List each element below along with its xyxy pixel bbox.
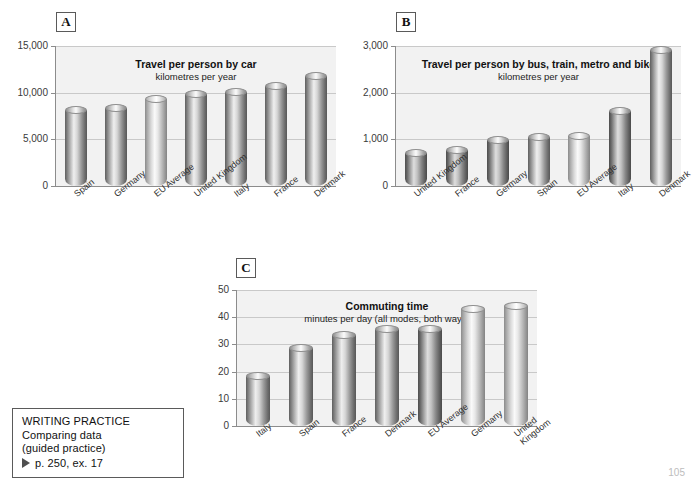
writing-practice-reference[interactable]: p. 250, ex. 17 bbox=[22, 457, 175, 471]
writing-practice-box: WRITING PRACTICE Comparing data (guided … bbox=[12, 408, 184, 478]
chart-title-a: Travel per person by car bbox=[56, 58, 336, 70]
bar bbox=[568, 132, 590, 186]
chart-subtitle-b: kilometres per year bbox=[396, 71, 681, 82]
gridline bbox=[56, 46, 336, 47]
bar-body bbox=[65, 110, 87, 186]
bar bbox=[650, 46, 672, 186]
triangle-right-icon bbox=[22, 458, 30, 468]
plot-area-b: Travel per person by bus, train, metro a… bbox=[395, 46, 681, 187]
y-axis-tick-mark bbox=[391, 93, 395, 94]
plot-area-a: Travel per person by carkilometres per y… bbox=[55, 46, 336, 187]
y-axis-tick-label: 30 bbox=[200, 339, 229, 349]
bar bbox=[305, 72, 327, 186]
bar-body bbox=[265, 86, 287, 186]
bar-top-ellipse bbox=[504, 302, 528, 310]
y-axis-tick-label: 50 bbox=[200, 285, 229, 295]
y-axis-tick-label: 3,000 bbox=[340, 41, 388, 51]
bar-body bbox=[375, 329, 399, 426]
bar-top-ellipse bbox=[289, 344, 313, 352]
y-axis-tick-mark bbox=[391, 186, 395, 187]
y-axis-tick-mark bbox=[51, 46, 55, 47]
bar-top-ellipse bbox=[528, 133, 550, 141]
y-axis-tick-mark bbox=[51, 139, 55, 140]
bar-body bbox=[650, 50, 672, 186]
y-axis-tick-label: 2,000 bbox=[340, 88, 388, 98]
bar-body bbox=[528, 137, 550, 186]
gridline bbox=[396, 93, 681, 94]
y-axis-tick-mark bbox=[391, 139, 395, 140]
bar-body bbox=[487, 140, 509, 186]
bar-top-ellipse bbox=[305, 72, 327, 80]
y-axis-tick-mark bbox=[51, 186, 55, 187]
bar-top-ellipse bbox=[225, 88, 247, 96]
bar bbox=[418, 325, 442, 426]
bar bbox=[487, 136, 509, 186]
y-axis-tick-mark bbox=[232, 317, 236, 318]
y-axis-tick-mark bbox=[232, 372, 236, 373]
bar-top-ellipse bbox=[105, 104, 127, 112]
bar bbox=[528, 133, 550, 186]
bar-top-ellipse bbox=[650, 46, 672, 54]
y-axis-tick-label: 0 bbox=[340, 181, 388, 191]
y-axis-tick-label: 0 bbox=[0, 181, 48, 191]
y-axis-tick-mark bbox=[232, 399, 236, 400]
writing-practice-line-1: Comparing data bbox=[22, 429, 175, 443]
y-axis-tick-label: 1,000 bbox=[340, 134, 388, 144]
bar-body bbox=[609, 111, 631, 186]
bar-body bbox=[246, 376, 270, 426]
bar-top-ellipse bbox=[145, 95, 167, 103]
bar-body bbox=[105, 108, 127, 186]
bar-top-ellipse bbox=[332, 331, 356, 339]
bar-top-ellipse bbox=[265, 82, 287, 90]
bar-body bbox=[305, 76, 327, 186]
bar bbox=[375, 325, 399, 426]
y-axis-tick-label: 40 bbox=[200, 312, 229, 322]
y-axis-tick-label: 5,000 bbox=[0, 134, 48, 144]
bar-body bbox=[418, 329, 442, 426]
panel-letter-a: A bbox=[56, 12, 76, 32]
page-number: 105 bbox=[668, 467, 685, 478]
bar bbox=[105, 104, 127, 186]
y-axis-tick-mark bbox=[232, 290, 236, 291]
bar-top-ellipse bbox=[418, 325, 442, 333]
bar-body bbox=[568, 136, 590, 186]
bar-top-ellipse bbox=[568, 132, 590, 140]
bar bbox=[504, 302, 528, 426]
bar-top-ellipse bbox=[609, 107, 631, 115]
chart-travel-by-public-transport: Travel per person by bus, train, metro a… bbox=[340, 38, 689, 238]
chart-title-b: Travel per person by bus, train, metro a… bbox=[396, 58, 681, 70]
gridline bbox=[396, 46, 681, 47]
bar-top-ellipse bbox=[246, 372, 270, 380]
bar-top-ellipse bbox=[446, 146, 468, 154]
bar-top-ellipse bbox=[65, 106, 87, 114]
bar bbox=[289, 344, 313, 426]
plot-area-c: Commuting timeminutes per day (all modes… bbox=[236, 290, 537, 427]
bar bbox=[246, 372, 270, 426]
writing-practice-line-2: (guided practice) bbox=[22, 442, 175, 456]
bar-top-ellipse bbox=[405, 149, 427, 157]
panel-letter-b: B bbox=[396, 12, 416, 32]
bar bbox=[332, 331, 356, 426]
y-axis-tick-label: 15,000 bbox=[0, 41, 48, 51]
y-axis-tick-label: 0 bbox=[200, 421, 229, 431]
y-axis-tick-label: 10,000 bbox=[0, 88, 48, 98]
bar-body bbox=[332, 335, 356, 426]
gridline bbox=[237, 290, 537, 291]
bar-top-ellipse bbox=[487, 136, 509, 144]
bar-body bbox=[289, 348, 313, 426]
writing-practice-heading: WRITING PRACTICE bbox=[22, 415, 175, 429]
writing-practice-reference-label: p. 250, ex. 17 bbox=[35, 457, 103, 471]
bar-body bbox=[145, 99, 167, 186]
y-axis-tick-mark bbox=[232, 426, 236, 427]
bar bbox=[145, 95, 167, 186]
y-axis-tick-label: 20 bbox=[200, 367, 229, 377]
bar-body bbox=[504, 306, 528, 426]
chart-subtitle-c: minutes per day (all modes, both ways) bbox=[237, 313, 537, 324]
panel-letter-c: C bbox=[236, 258, 256, 278]
bar bbox=[65, 106, 87, 186]
chart-travel-by-car: Travel per person by carkilometres per y… bbox=[0, 38, 340, 238]
chart-commuting-time: Commuting timeminutes per day (all modes… bbox=[200, 282, 560, 476]
bar bbox=[265, 82, 287, 186]
bar-top-ellipse bbox=[185, 90, 207, 98]
y-axis-tick-mark bbox=[232, 344, 236, 345]
